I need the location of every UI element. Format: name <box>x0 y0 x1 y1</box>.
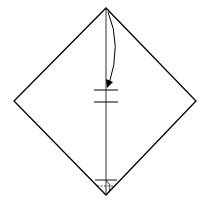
origami-diagram <box>0 0 209 211</box>
